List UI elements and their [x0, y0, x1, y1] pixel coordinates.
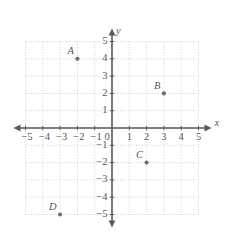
y-axis-tick-label: 2: [102, 88, 107, 99]
data-point-marker: [145, 161, 149, 165]
y-axis-tick-label: 4: [102, 53, 107, 64]
y-axis-tick-label: −1: [96, 140, 107, 151]
x-axis-tick-label: 2: [144, 132, 149, 143]
y-axis-tick-label: 3: [102, 71, 107, 82]
data-point-marker: [162, 91, 166, 95]
x-axis-tick-label: −2: [73, 132, 84, 143]
data-point-label-d: D: [49, 202, 57, 213]
data-point-marker: [75, 57, 79, 61]
y-axis-tick-label: −4: [96, 192, 107, 203]
graph-canvas: [0, 0, 227, 239]
x-axis-arrow-left: [14, 125, 21, 132]
coordinate-plane-figure: −5−4−3−2−101234554321−1−2−3−4−5xyABCD: [0, 0, 227, 239]
y-axis-tick-label: −3: [96, 174, 107, 185]
y-axis-tick-label: 5: [102, 36, 107, 47]
y-axis-arrow-down: [109, 221, 116, 228]
data-point-label-a: A: [67, 46, 73, 57]
y-axis-arrow-up: [109, 29, 116, 36]
x-axis-tick-label: −5: [21, 132, 32, 143]
x-axis-tick-label: −4: [39, 132, 50, 143]
data-point-marker: [58, 212, 62, 216]
data-point-label-c: C: [136, 150, 143, 161]
x-axis-tick-label: −3: [56, 132, 67, 143]
y-axis-tick-label: −5: [96, 209, 107, 220]
y-axis-label: y: [116, 26, 121, 37]
data-point-label-b: B: [154, 81, 160, 92]
x-axis-tick-label: 4: [179, 132, 184, 143]
x-axis-arrow-right: [205, 125, 212, 132]
x-axis-label: x: [215, 118, 220, 129]
x-axis-tick-label: 1: [127, 132, 132, 143]
x-axis-tick-label: 3: [161, 132, 166, 143]
y-axis-tick-label: −2: [96, 157, 107, 168]
x-axis-tick-label: 5: [196, 132, 201, 143]
y-axis-tick-label: 1: [102, 105, 107, 116]
